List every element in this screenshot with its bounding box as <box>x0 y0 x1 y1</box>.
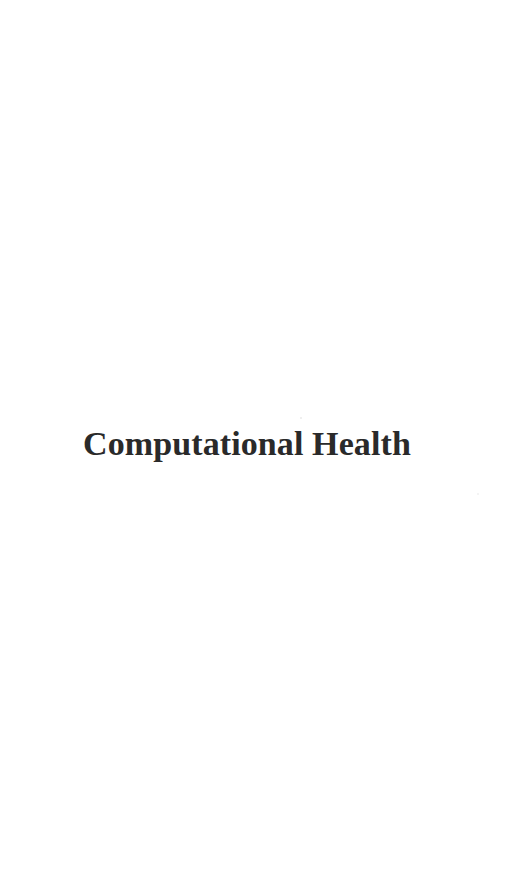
page-title: Computational Health <box>83 424 411 464</box>
blank-area-above-title <box>0 0 514 425</box>
scanned-page: Computational Health <box>0 0 514 881</box>
scan-speck-lower-right <box>477 493 479 495</box>
scan-speck-above-title <box>300 417 302 419</box>
blank-area-below-title <box>0 470 514 881</box>
page-title-block: Computational Health <box>0 424 514 464</box>
